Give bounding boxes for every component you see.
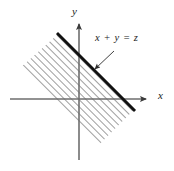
hatched-region xyxy=(22,34,134,144)
math-figure-half-plane: y x x + y = z xyxy=(0,0,174,171)
y-axis-label: y xyxy=(72,6,77,17)
x-axis-label: x xyxy=(158,90,163,101)
figure-canvas xyxy=(0,0,174,171)
callout-arrow-icon xyxy=(95,51,114,69)
boundary-line-label: x + y = z xyxy=(95,33,138,44)
